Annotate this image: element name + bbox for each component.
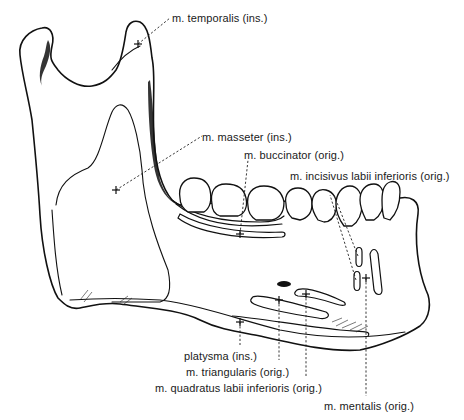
premolar-2 (286, 188, 312, 220)
label-quadratus: m. quadratus labii inferioris (orig.) (155, 382, 322, 394)
label-mentalis: m. mentalis (orig.) (324, 400, 414, 412)
label-buccinator: m. buccinator (orig.) (244, 149, 344, 161)
molar-2 (212, 184, 247, 216)
label-platysma: platysma (ins.) (184, 350, 257, 362)
label-incisivus: m. incisivus labii inferioris (orig.) (290, 170, 450, 182)
molar-3 (180, 178, 211, 212)
label-masseter: m. masseter (ins.) (202, 131, 292, 143)
molar-1 (248, 186, 284, 220)
label-temporalis: m. temporalis (ins.) (172, 12, 268, 24)
canine (336, 186, 362, 226)
mental-foramen (277, 281, 291, 287)
label-triangularis: m. triangularis (orig.) (186, 366, 289, 378)
incisivus-scar-2 (354, 272, 360, 291)
incisivus-scar-1 (356, 248, 362, 267)
premolar-1 (312, 190, 337, 222)
mandible-diagram: m. temporalis (ins.) m. masseter (ins.) … (0, 0, 464, 420)
